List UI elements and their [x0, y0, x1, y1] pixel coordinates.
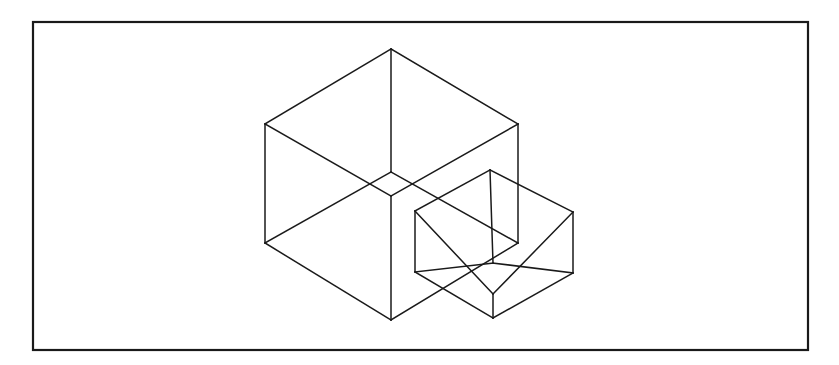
- border-rectangle: [33, 22, 808, 350]
- figure-canvas: [0, 0, 839, 365]
- line-drawing-svg: [0, 0, 839, 365]
